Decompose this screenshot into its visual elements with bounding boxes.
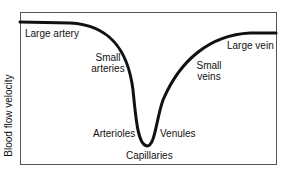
label-arterioles: Arterioles bbox=[93, 128, 135, 139]
label-capillaries: Capillaries bbox=[126, 150, 173, 161]
velocity-chart bbox=[0, 0, 287, 173]
label-large-vein: Large vein bbox=[227, 40, 274, 51]
label-small-veins: Small veins bbox=[192, 60, 226, 82]
y-axis-label: Blood flow velocity bbox=[3, 66, 14, 166]
label-small-arteries: Small arteries bbox=[86, 52, 130, 74]
label-venules: Venules bbox=[160, 128, 196, 139]
label-small-veins-line1: Small bbox=[192, 60, 226, 71]
label-small-arteries-line2: arteries bbox=[86, 63, 130, 74]
label-small-arteries-line1: Small bbox=[86, 52, 130, 63]
label-small-veins-line2: veins bbox=[192, 71, 226, 82]
label-large-artery: Large artery bbox=[25, 28, 79, 39]
